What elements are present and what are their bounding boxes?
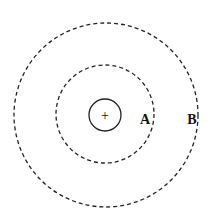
equipotential-diagram: + A B — [0, 0, 210, 218]
plus-sign-icon: + — [101, 108, 109, 123]
label-b: B — [187, 112, 196, 127]
label-a: A — [140, 112, 151, 127]
